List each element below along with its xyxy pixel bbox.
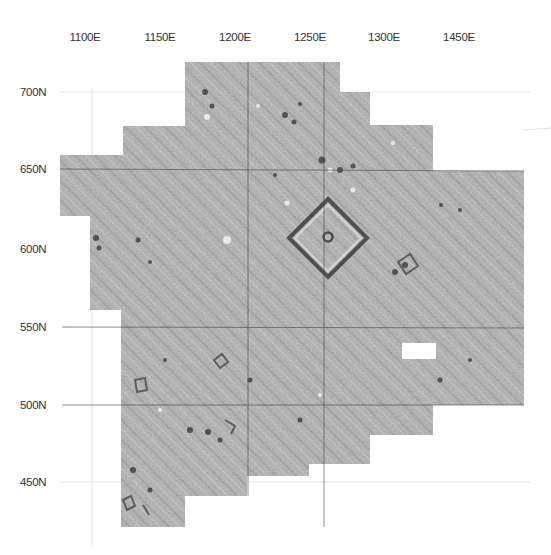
y-axis-label-600n: 600N	[20, 243, 46, 255]
survey-map-canvas	[0, 0, 551, 555]
x-axis-label-1100e: 1100E	[70, 31, 101, 43]
x-axis-label-1200e: 1200E	[219, 31, 251, 43]
survey-data-area	[50, 55, 540, 535]
blank-data-gap	[402, 343, 436, 359]
x-axis-label-1450e: 1450E	[443, 31, 475, 43]
x-axis-label-1150e: 1150E	[145, 31, 176, 43]
y-axis-label-550n: 550N	[20, 321, 46, 333]
y-axis-label-700n: 700N	[20, 86, 46, 98]
y-axis-label-650n: 650N	[20, 163, 46, 175]
y-axis-label-500n: 500N	[20, 399, 46, 411]
x-axis-label-1250e: 1250E	[294, 31, 326, 43]
y-axis-label-450n: 450N	[20, 476, 46, 488]
x-axis-label-1300e: 1300E	[368, 31, 400, 43]
